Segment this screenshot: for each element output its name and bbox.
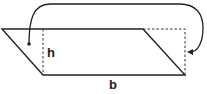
base-label: b (109, 78, 117, 91)
height-label: h (47, 46, 55, 59)
arrow-start-dot (27, 42, 31, 46)
curved-arrow (29, 4, 203, 52)
arrowhead-icon (187, 49, 193, 55)
parallelogram-area-diagram: h b (0, 0, 207, 94)
diagram-canvas (0, 0, 207, 94)
